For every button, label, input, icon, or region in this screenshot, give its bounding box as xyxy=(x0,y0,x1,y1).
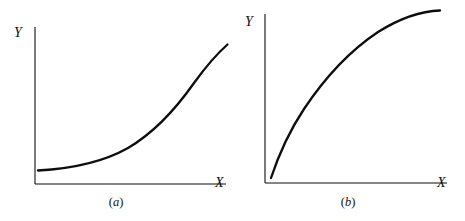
caption-close-paren-a: ) xyxy=(119,195,123,209)
data-curve-a xyxy=(38,45,228,171)
x-axis-label-a: X xyxy=(215,176,224,190)
panel-b: Y X (b) xyxy=(232,0,464,221)
y-axis-label-b: Y xyxy=(245,15,253,29)
figure-container: Y X (a) Y X (b) xyxy=(0,0,465,221)
panel-a: Y X (a) xyxy=(0,0,232,221)
caption-close-paren-b: ) xyxy=(351,195,355,209)
x-axis-label-b: X xyxy=(437,176,446,190)
y-axis-label-a: Y xyxy=(14,26,22,40)
plot-b xyxy=(232,0,465,221)
data-curve-b xyxy=(271,11,440,179)
plot-a xyxy=(0,0,232,221)
panel-caption-a: (a) xyxy=(0,196,232,209)
panel-caption-b: (b) xyxy=(232,196,464,209)
